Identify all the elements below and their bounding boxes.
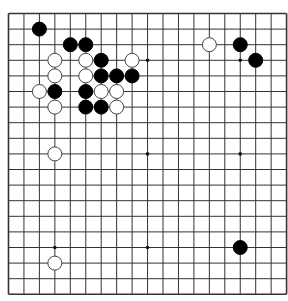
white-stone [79, 53, 93, 67]
black-stone [63, 38, 77, 52]
black-stone [110, 69, 124, 83]
white-stone [48, 147, 62, 161]
white-stone [32, 85, 46, 99]
white-stone [125, 53, 139, 67]
white-stone [79, 69, 93, 83]
black-stone [79, 85, 93, 99]
white-stone [110, 85, 124, 99]
black-stone [233, 38, 247, 52]
white-stone [48, 53, 62, 67]
go-board[interactable] [0, 0, 288, 301]
black-stone [94, 69, 108, 83]
black-stone [125, 69, 139, 83]
star-point [238, 59, 242, 63]
white-stone [110, 100, 124, 114]
black-stone [94, 100, 108, 114]
white-stone [48, 69, 62, 83]
black-stone [233, 241, 247, 255]
star-point [146, 246, 150, 250]
black-stone [249, 53, 263, 67]
star-point [53, 246, 57, 250]
black-stone [79, 38, 93, 52]
star-point [146, 59, 150, 63]
black-stone [94, 53, 108, 67]
black-stone [79, 100, 93, 114]
star-point [238, 152, 242, 156]
white-stone [202, 38, 216, 52]
white-stone [48, 256, 62, 270]
black-stone [48, 85, 62, 99]
black-stone [32, 22, 46, 36]
white-stone [48, 100, 62, 114]
white-stone [94, 85, 108, 99]
star-point [146, 152, 150, 156]
